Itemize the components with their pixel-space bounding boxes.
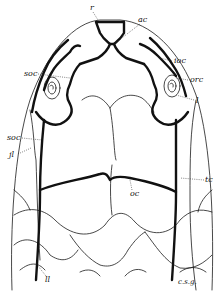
right-central-plate (110, 95, 154, 112)
label-oc: oc (130, 189, 140, 198)
left-central-plate (82, 96, 116, 160)
scales (14, 190, 212, 276)
occipital-commissure (40, 173, 176, 192)
canal-system (32, 22, 188, 280)
label-orc: orc (190, 75, 204, 84)
signature: c.s.g. (178, 278, 197, 286)
label-ioc: ioc (174, 56, 186, 65)
right-trunk-canal (172, 120, 176, 280)
label-tc: tc (205, 175, 213, 184)
label-jl: jl (7, 150, 14, 159)
lateral-line-diagram: r ac ioc orc soc l jl soc tc oc ll c.s.g… (0, 0, 224, 295)
label-soc-upper: soc (24, 69, 38, 78)
label-ac: ac (138, 15, 148, 24)
label-soc-lower: soc (7, 133, 21, 142)
midline-plate (111, 165, 113, 215)
right-eye (164, 75, 180, 97)
label-ll: ll (45, 275, 51, 284)
label-l: l (196, 96, 199, 105)
right-cheek-outline (190, 100, 196, 290)
right-supraorbital-canal (144, 64, 188, 125)
label-r: r (90, 3, 95, 12)
rostral-canal (96, 22, 124, 44)
